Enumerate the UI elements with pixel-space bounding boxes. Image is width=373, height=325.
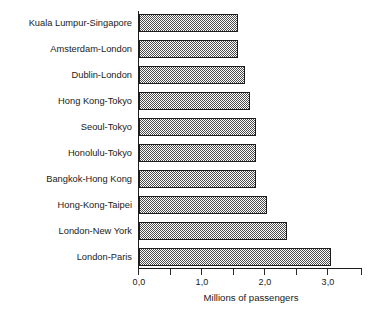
bar-row: London-Paris	[0, 248, 373, 266]
x-axis-tick-major	[327, 269, 328, 275]
x-axis-tick-minor	[361, 269, 362, 275]
bar-row: Hong Kong-Tokyo	[0, 92, 373, 110]
bar	[139, 92, 250, 110]
bar-row: Bangkok-Hong Kong	[0, 170, 373, 188]
category-label: Seoul-Tokyo	[81, 122, 132, 133]
bar-row: London-New York	[0, 222, 373, 240]
x-axis-tick-major	[201, 269, 202, 275]
category-label: Dublin-London	[72, 70, 132, 81]
bar	[139, 248, 331, 266]
bar-row: Honolulu-Tokyo	[0, 144, 373, 162]
bar	[139, 144, 256, 162]
plot-area: 0,0 1,0 2,0 3,0 Kuala Lumpur-Singapore A…	[0, 0, 373, 325]
category-label: Hong-Kong-Taipei	[58, 200, 132, 211]
x-axis-tick-major	[264, 269, 265, 275]
bar	[139, 40, 238, 58]
category-label: Bangkok-Hong Kong	[46, 174, 132, 185]
bar-row: Amsterdam-London	[0, 40, 373, 58]
bar	[139, 170, 256, 188]
bar	[139, 66, 245, 84]
x-axis-line	[138, 268, 362, 269]
x-tick-label: 3,0	[321, 277, 334, 287]
bar-chart: 0,0 1,0 2,0 3,0 Kuala Lumpur-Singapore A…	[0, 0, 373, 325]
bar-row: Kuala Lumpur-Singapore	[0, 14, 373, 32]
bar	[139, 118, 256, 136]
category-label: Hong Kong-Tokyo	[58, 96, 132, 107]
category-label: Amsterdam-London	[50, 44, 132, 55]
bar	[139, 14, 238, 32]
x-axis-tick-minor	[170, 269, 171, 275]
bar-row: Seoul-Tokyo	[0, 118, 373, 136]
category-label: Kuala Lumpur-Singapore	[29, 18, 132, 29]
x-axis-title: Millions of passengers	[139, 292, 363, 303]
x-tick-label: 2,0	[258, 277, 271, 287]
x-tick-label: 0,0	[132, 277, 145, 287]
bar	[139, 222, 287, 240]
category-label: London-Paris	[77, 252, 132, 263]
bar	[139, 196, 267, 214]
bar-row: Hong-Kong-Taipei	[0, 196, 373, 214]
x-axis-tick-major	[138, 269, 139, 275]
x-tick-label: 1,0	[195, 277, 208, 287]
x-axis-tick-minor	[296, 269, 297, 275]
x-axis-tick-minor	[233, 269, 234, 275]
bar-row: Dublin-London	[0, 66, 373, 84]
category-label: Honolulu-Tokyo	[68, 148, 132, 159]
category-label: London-New York	[59, 226, 132, 237]
